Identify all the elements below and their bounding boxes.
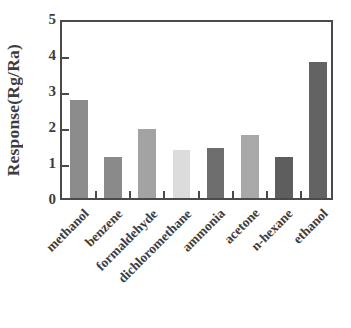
y-tick-mark — [62, 93, 69, 95]
y-tick-label: 1 — [34, 156, 56, 171]
y-tick-label: 0 — [34, 192, 56, 207]
x-tick-mark — [266, 191, 268, 198]
bar-chart-figure: Response(Rg/Ra) 012345 methanolbenzenefo… — [0, 0, 351, 328]
bar-formaldehyde — [138, 129, 156, 198]
plot-inner — [62, 22, 331, 198]
bar-methanol — [70, 100, 88, 198]
x-tick-mark — [129, 191, 131, 198]
bar-acetone — [241, 135, 259, 198]
plot-area — [60, 20, 333, 200]
y-tick-label: 2 — [34, 120, 56, 135]
bar-ethanol — [309, 62, 327, 198]
y-tick-mark — [62, 129, 69, 131]
y-axis-tick-labels: 012345 — [28, 0, 56, 328]
y-axis-title-wrapper: Response(Rg/Ra) — [0, 18, 26, 203]
x-tick-mark — [163, 191, 165, 198]
bar-n-hexane — [275, 157, 293, 198]
x-tick-mark — [95, 191, 97, 198]
y-tick-label: 3 — [34, 84, 56, 99]
x-tick-label-ethanol: ethanol — [290, 206, 332, 248]
x-tick-mark — [198, 191, 200, 198]
bar-dichloromethane — [173, 150, 191, 198]
x-tick-mark — [232, 191, 234, 198]
y-tick-label: 5 — [34, 12, 56, 27]
y-tick-mark — [62, 57, 69, 59]
bar-ammonia — [207, 148, 225, 198]
bar-benzene — [104, 157, 122, 198]
y-axis-title: Response(Rg/Ra) — [3, 44, 24, 176]
x-tick-mark — [300, 191, 302, 198]
y-tick-mark — [62, 165, 69, 167]
y-tick-label: 4 — [34, 48, 56, 63]
